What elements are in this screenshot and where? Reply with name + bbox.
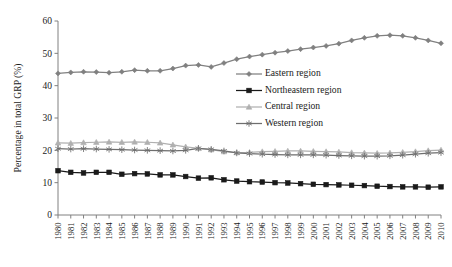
series-marker-eastern-region bbox=[285, 49, 290, 54]
y-axis-title: Percentage in total GRP (%) bbox=[12, 64, 24, 173]
series-marker-eastern-region bbox=[183, 63, 188, 68]
x-tick-label: 1996 bbox=[257, 222, 267, 240]
x-tick-label: 1981 bbox=[66, 223, 76, 240]
x-tick-label: 1990 bbox=[181, 223, 191, 240]
x-tick-label: 2000 bbox=[309, 223, 319, 240]
series-marker-eastern-region bbox=[413, 35, 418, 40]
series-marker-northeastern-region bbox=[273, 180, 278, 185]
x-tick-label: 2005 bbox=[372, 223, 382, 240]
series-line-northeastern-region bbox=[58, 171, 441, 187]
chart-canvas: 0102030405060198019811982198319841985198… bbox=[0, 0, 452, 267]
series-marker-northeastern-region bbox=[439, 185, 444, 190]
x-tick-label: 2006 bbox=[385, 222, 395, 240]
x-tick-label: 2008 bbox=[411, 223, 421, 240]
series-marker-eastern-region bbox=[387, 33, 392, 38]
x-tick-label: 1993 bbox=[219, 223, 229, 240]
y-tick-label: 20 bbox=[43, 146, 53, 156]
series-marker-eastern-region bbox=[221, 61, 226, 66]
x-tick-label: 1991 bbox=[194, 223, 204, 240]
series-marker-eastern-region bbox=[426, 38, 431, 43]
legend-label: Northeastern region bbox=[265, 84, 342, 95]
legend-label: Eastern region bbox=[265, 67, 321, 78]
x-tick-label: 1997 bbox=[270, 222, 280, 240]
series-marker-northeastern-region bbox=[56, 168, 61, 173]
series-marker-northeastern-region bbox=[132, 171, 137, 176]
series-marker-northeastern-region bbox=[388, 184, 393, 189]
x-tick-label: 1983 bbox=[92, 223, 102, 240]
series-marker-northeastern-region bbox=[413, 185, 418, 190]
series-marker-eastern-region bbox=[375, 33, 380, 38]
series-marker-eastern-region bbox=[145, 68, 150, 73]
series-marker-northeastern-region bbox=[209, 176, 214, 181]
series-marker-eastern-region bbox=[260, 52, 265, 57]
series-marker-northeastern-region bbox=[311, 182, 316, 187]
series-marker-northeastern-region bbox=[234, 179, 239, 184]
series-marker-northeastern-region bbox=[362, 183, 367, 188]
series-marker-eastern-region bbox=[94, 70, 99, 75]
legend-swatch-marker bbox=[247, 88, 252, 93]
series-marker-northeastern-region bbox=[158, 173, 163, 178]
series-marker-eastern-region bbox=[56, 71, 61, 76]
y-tick-label: 30 bbox=[43, 113, 53, 123]
series-marker-eastern-region bbox=[273, 50, 278, 55]
x-tick-label: 2007 bbox=[398, 222, 408, 240]
x-tick-label: 2002 bbox=[334, 223, 344, 240]
x-tick-label: 1984 bbox=[104, 222, 114, 240]
x-tick-label: 1995 bbox=[245, 223, 255, 240]
series-marker-northeastern-region bbox=[171, 173, 176, 178]
series-marker-eastern-region bbox=[349, 38, 354, 43]
series-marker-northeastern-region bbox=[222, 177, 227, 182]
x-tick-label: 2009 bbox=[423, 223, 433, 240]
series-marker-northeastern-region bbox=[196, 176, 201, 181]
y-tick-label: 60 bbox=[43, 16, 53, 26]
x-tick-label: 1980 bbox=[53, 223, 63, 240]
y-tick-label: 0 bbox=[47, 210, 52, 220]
series-marker-eastern-region bbox=[132, 68, 137, 73]
series-marker-northeastern-region bbox=[426, 185, 431, 190]
x-tick-label: 1982 bbox=[79, 223, 89, 240]
series-marker-northeastern-region bbox=[68, 170, 73, 175]
series-marker-northeastern-region bbox=[81, 171, 86, 176]
series-marker-eastern-region bbox=[324, 43, 329, 48]
series-marker-eastern-region bbox=[439, 41, 444, 46]
x-tick-label: 2010 bbox=[436, 223, 446, 240]
series-marker-eastern-region bbox=[336, 41, 341, 46]
series-marker-northeastern-region bbox=[183, 174, 188, 179]
series-marker-northeastern-region bbox=[94, 170, 99, 175]
series-marker-eastern-region bbox=[119, 69, 124, 74]
series-marker-northeastern-region bbox=[337, 183, 342, 188]
legend-label: Western region bbox=[265, 117, 323, 128]
series-marker-northeastern-region bbox=[247, 179, 252, 184]
series-marker-northeastern-region bbox=[286, 181, 291, 186]
series-marker-western-region bbox=[441, 153, 444, 155]
legend-swatch-marker bbox=[247, 72, 252, 77]
series-marker-eastern-region bbox=[247, 54, 252, 59]
x-tick-label: 1986 bbox=[130, 222, 140, 240]
x-tick-label: 1992 bbox=[206, 223, 216, 240]
series-marker-eastern-region bbox=[158, 68, 163, 73]
series-marker-eastern-region bbox=[311, 45, 316, 50]
series-marker-northeastern-region bbox=[400, 185, 405, 190]
x-tick-label: 1998 bbox=[283, 223, 293, 240]
series-marker-eastern-region bbox=[400, 33, 405, 38]
y-tick-label: 40 bbox=[43, 81, 53, 91]
series-marker-northeastern-region bbox=[375, 184, 380, 189]
series-marker-northeastern-region bbox=[145, 172, 150, 177]
series-marker-eastern-region bbox=[196, 62, 201, 67]
series-marker-northeastern-region bbox=[260, 180, 265, 185]
x-tick-label: 1999 bbox=[296, 223, 306, 240]
x-tick-label: 1989 bbox=[168, 223, 178, 240]
series-marker-northeastern-region bbox=[324, 182, 329, 187]
series-marker-eastern-region bbox=[298, 47, 303, 52]
y-tick-label: 10 bbox=[43, 178, 53, 188]
legend-label: Central region bbox=[265, 100, 320, 111]
series-marker-eastern-region bbox=[170, 66, 175, 71]
x-tick-label: 2003 bbox=[347, 223, 357, 240]
series-marker-northeastern-region bbox=[298, 181, 303, 186]
x-tick-label: 2001 bbox=[321, 223, 331, 240]
line-chart: 0102030405060198019811982198319841985198… bbox=[0, 0, 452, 267]
x-tick-label: 1994 bbox=[232, 222, 242, 240]
series-marker-northeastern-region bbox=[349, 183, 354, 188]
series-marker-eastern-region bbox=[362, 35, 367, 40]
x-tick-label: 1987 bbox=[143, 222, 153, 240]
